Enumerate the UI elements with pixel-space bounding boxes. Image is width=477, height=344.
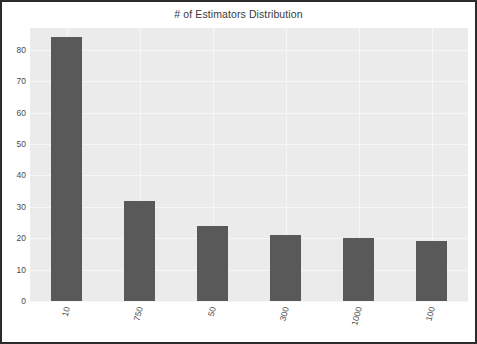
y-axis-tick-label: 40	[0, 170, 26, 180]
y-axis-tick-label: 60	[0, 108, 26, 118]
bar	[343, 238, 374, 301]
bar	[416, 241, 447, 301]
x-axis-tick-label: 1000	[349, 306, 364, 327]
chart-title: # of Estimators Distribution	[2, 8, 475, 20]
x-axis-tick-label: 100	[423, 306, 436, 322]
bar-series	[30, 28, 468, 301]
bar	[124, 201, 155, 301]
bar	[270, 235, 301, 301]
x-axis-tick-label: 750	[131, 306, 144, 322]
x-axis-tick-label: 50	[205, 306, 217, 318]
chart-figure: # of Estimators Distribution 01020304050…	[0, 0, 477, 344]
x-axis-tick-label: 10	[59, 306, 71, 318]
y-axis-tick-label: 10	[0, 265, 26, 275]
y-axis-tick-label: 20	[0, 233, 26, 243]
bar	[51, 37, 82, 301]
gridline-horizontal	[30, 301, 468, 302]
y-axis-tick-label: 50	[0, 139, 26, 149]
y-axis-tick-label: 80	[0, 45, 26, 55]
y-axis-tick-label: 0	[0, 296, 26, 306]
x-axis-tick-label: 300	[277, 306, 290, 322]
y-axis-tick-label: 30	[0, 202, 26, 212]
y-axis-tick-label: 70	[0, 76, 26, 86]
plot-area: 01020304050607080 10750503001000100	[30, 28, 468, 301]
bar	[197, 226, 228, 301]
